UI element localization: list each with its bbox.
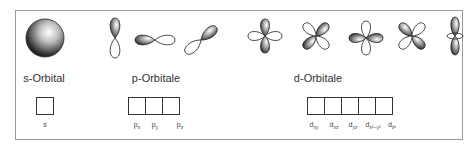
dz2-orbital-icon [447,17,463,55]
py-sublabel: py [152,121,158,130]
dz2-sublabel: dz² [388,121,396,130]
px-sublabel: px [134,121,140,130]
dx2y2-sublabel: dx²−y² [365,121,380,130]
orbital-box-py [145,97,163,115]
orbital-box-px [128,97,146,115]
py-orbital-icon [183,23,220,56]
s-orbital-label: s-Orbital [23,72,65,84]
p-orbital-label: p-Orbitale [132,72,180,84]
s-orbital-sphere-icon [26,19,64,57]
dxz-orbital-icon [292,12,340,60]
dxy-sublabel: dxy [310,121,319,130]
orbital-box-dxz [324,97,342,115]
d-orbital-boxes [307,97,393,115]
dyz-orbital-icon [349,21,383,55]
px-orbital-icon [135,35,175,45]
orbital-box-pz [162,97,180,115]
orbital-box-dz2 [375,97,393,115]
s-sublabel: s [43,121,47,128]
dxz-sublabel: dxz [330,121,339,130]
d-orbital-label: d-Orbitale [294,72,342,84]
orbital-box-dxy [307,97,325,115]
orbital-box-dyz [341,97,359,115]
dyz-sublabel: dyz [349,121,358,130]
p-orbital-boxes [128,97,180,115]
orbital-box-s [36,97,54,115]
orbital-box-dx2y2 [358,97,376,115]
s-orbital-boxes [36,97,54,115]
dxy-orbital-icon [248,19,282,53]
pz-orbital-icon [110,18,120,58]
pz-sublabel: pz [177,121,183,130]
dx2y2-orbital-icon [388,12,436,60]
orbital-shapes [0,0,475,151]
